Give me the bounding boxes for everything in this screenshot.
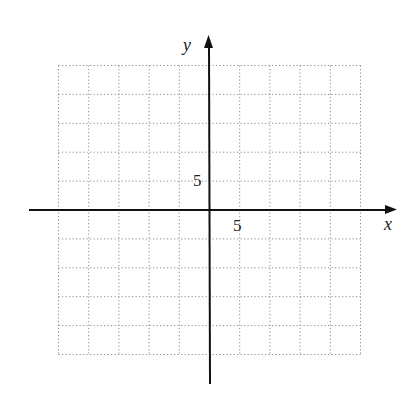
coordinate-plane: x y 5 5 — [0, 0, 415, 395]
y-axis — [209, 45, 210, 384]
y-tick-label-5: 5 — [193, 171, 202, 190]
x-tick-label-5: 5 — [233, 216, 242, 235]
y-axis-arrow-icon — [204, 35, 213, 48]
x-axis-arrow-icon — [385, 205, 397, 214]
x-axis-label: x — [383, 214, 392, 234]
y-axis-label: y — [181, 35, 191, 55]
